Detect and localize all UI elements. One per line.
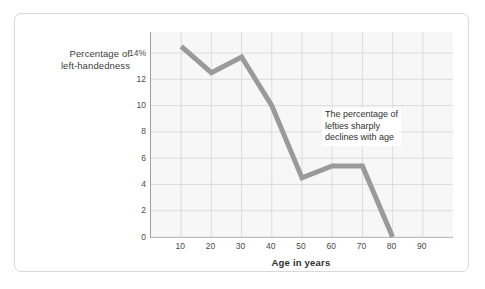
chart-annotation-line-2: lefties sharply (325, 121, 398, 133)
x-axis-title: Age in years (150, 257, 452, 268)
data-series-line (151, 32, 453, 237)
plot-area (150, 32, 453, 238)
x-axis-tick-labels: 102030405060708090 (150, 241, 452, 255)
y-axis-tick-label: 0 (112, 233, 146, 242)
y-axis-tick-label: 6 (112, 154, 146, 163)
y-axis-tick-label: 4 (112, 180, 146, 189)
y-axis-tick-label: 14% (112, 49, 146, 58)
y-axis-tick-label: 2 (112, 206, 146, 215)
chart-annotation: The percentage of lefties sharply declin… (322, 108, 401, 146)
figure-canvas: Percentage of left-handedness 0246810121… (0, 0, 485, 289)
y-axis-tick-label: 10 (112, 101, 146, 110)
y-axis-tick-label: 8 (112, 127, 146, 136)
y-axis-tick-labels: 02468101214% (110, 32, 146, 237)
chart-annotation-line-3: declines with age (325, 132, 398, 144)
x-axis-tick-label: 90 (402, 241, 442, 251)
chart-annotation-line-1: The percentage of (325, 109, 398, 121)
y-axis-tick-label: 12 (112, 75, 146, 84)
